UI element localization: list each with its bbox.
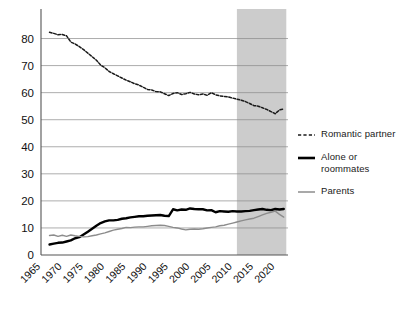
shaded-region-group [237,9,286,255]
y-tick-label: 10 [21,222,34,234]
legend-item-romantic-partner: Romantic partner [298,128,414,140]
legend-item-parents: Parents [298,185,414,197]
forecast-shaded-band [237,9,286,255]
y-tick-label: 50 [21,114,34,126]
legend-label-parents: Parents [321,185,354,197]
legend-label-alone-or-roommates: Alone or roommates [321,151,369,174]
y-tick-label: 30 [21,168,34,180]
legend-swatch-dashed-icon [298,129,315,141]
y-tick-label: 20 [21,195,34,207]
y-tick-label: 0 [28,249,34,261]
legend-label-romantic-partner: Romantic partner [321,128,395,140]
y-tick-label: 60 [21,87,34,99]
chart-legend: Romantic partner Alone or roommates Pare… [298,128,414,208]
y-tick-label: 80 [21,33,34,45]
y-tick-label: 40 [21,141,34,153]
legend-swatch-thick-icon [298,152,315,164]
y-tick-label: 70 [21,60,34,72]
legend-swatch-thin-icon [298,186,315,198]
y-axis-tick-labels: 01020304050607080 [21,33,34,261]
legend-item-alone-or-roommates: Alone or roommates [298,151,414,174]
